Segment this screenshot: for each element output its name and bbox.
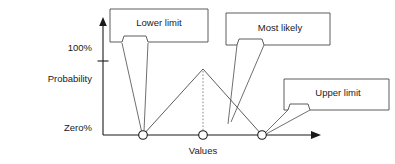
upper-limit-marker[interactable] — [258, 131, 267, 140]
x-axis-arrow-icon — [311, 131, 321, 139]
y-axis-arrow-icon — [99, 17, 107, 26]
triangular-distribution-path — [143, 69, 262, 135]
callout-upper-limit-label: Upper limit — [315, 87, 361, 98]
lower-limit-marker[interactable] — [139, 131, 148, 140]
callout-lower-limit-leader-1 — [122, 43, 142, 131]
y-axis-title: Probability — [48, 73, 93, 84]
distribution-curve-group — [143, 69, 262, 135]
y-axis-tick-label-100: 100% — [68, 42, 93, 53]
callout-most-likely-label: Most likely — [258, 22, 303, 33]
most-likely-marker[interactable] — [199, 131, 208, 140]
diagram-canvas: 100% Probability Zero% Values Lower limi… — [0, 0, 395, 164]
callout-upper-limit-leader-2 — [267, 110, 310, 134]
triangular-distribution-diagram: 100% Probability Zero% Values Lower limi… — [0, 0, 395, 164]
callout-lower-limit[interactable]: Lower limit — [110, 9, 208, 131]
callout-lower-limit-label: Lower limit — [136, 17, 182, 28]
axis-label-group: 100% Probability Zero% Values — [48, 42, 218, 156]
y-axis-tick-label-zero: Zero% — [64, 122, 93, 133]
callout-upper-limit-leader-1 — [266, 110, 288, 132]
x-axis-title: Values — [189, 145, 218, 156]
callout-upper-limit[interactable]: Upper limit — [266, 79, 389, 134]
callout-lower-limit-leader-2 — [144, 43, 148, 131]
